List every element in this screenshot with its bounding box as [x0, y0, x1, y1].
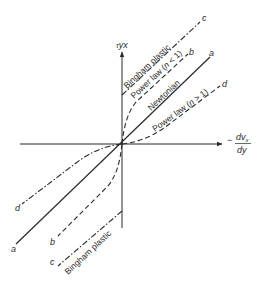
letter-b-lower: b — [50, 237, 55, 247]
letter-a-lower: a — [11, 244, 16, 254]
curve-bingham-lower — [58, 211, 122, 266]
letter-c-upper: c — [202, 13, 207, 23]
svg-text:−: − — [227, 135, 232, 145]
letter-d-upper: d — [222, 79, 228, 89]
flow-curves-diagram: τyx − dvx dy Bingham plastic Power law (… — [0, 0, 266, 288]
label-bingham-lower: Bingham plastic — [63, 228, 114, 277]
y-axis-label: τyx — [116, 40, 128, 50]
letter-c-lower: c — [50, 257, 55, 267]
curve-power-law-gt1-lower — [22, 144, 122, 204]
letter-a-upper: a — [209, 48, 214, 58]
letter-b-upper: b — [189, 47, 194, 57]
x-axis-label: − dvx dy — [227, 132, 251, 155]
svg-text:dy: dy — [237, 145, 247, 155]
svg-text:dvx: dvx — [236, 132, 250, 143]
curve-power-law-lt1-lower — [58, 144, 122, 236]
letter-d-lower: d — [15, 203, 21, 213]
